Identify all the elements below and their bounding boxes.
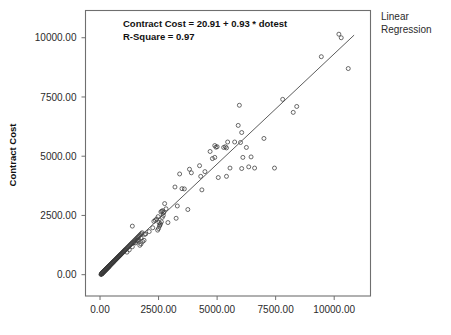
data-point xyxy=(166,221,170,225)
data-point xyxy=(240,131,244,135)
data-point xyxy=(247,165,251,169)
chart-figure: 0.002500.005000.007500.0010000.00 0.0025… xyxy=(0,0,451,335)
equation-annotation-line2: R-Square = 0.97 xyxy=(123,31,195,42)
data-point xyxy=(130,224,134,228)
legend-label-line1: Linear xyxy=(381,11,409,22)
y-axis-title: Contract Cost xyxy=(7,123,18,187)
data-point xyxy=(319,55,323,59)
scatter-plot-svg: 0.002500.005000.007500.0010000.00 0.0025… xyxy=(0,0,451,335)
data-point xyxy=(203,170,207,174)
y-tick-label: 0.00 xyxy=(57,269,77,280)
x-tick-label: 7500.00 xyxy=(258,304,295,315)
data-point xyxy=(174,216,178,220)
y-axis-tick-labels: 0.002500.005000.007500.0010000.00 xyxy=(35,32,77,280)
data-point xyxy=(295,104,299,108)
data-point xyxy=(291,110,295,114)
data-point xyxy=(244,145,248,149)
data-point xyxy=(178,172,182,176)
data-point xyxy=(346,67,350,71)
data-point xyxy=(186,208,190,212)
y-tick-label: 7500.00 xyxy=(40,92,77,103)
data-point xyxy=(233,140,237,144)
data-point xyxy=(240,167,244,171)
y-axis-ticks xyxy=(82,38,86,275)
data-point xyxy=(208,149,212,153)
data-point xyxy=(198,164,202,168)
data-point xyxy=(173,185,177,189)
y-tick-label: 2500.00 xyxy=(40,210,77,221)
data-point xyxy=(226,140,230,144)
data-point xyxy=(339,36,343,40)
equation-annotation-line1: Contract Cost = 20.91 + 0.93 * dotest xyxy=(123,18,288,29)
x-tick-label: 10000.00 xyxy=(313,304,355,315)
regression-line xyxy=(100,35,354,274)
data-point xyxy=(189,171,193,175)
data-point xyxy=(224,174,228,178)
data-point xyxy=(236,123,240,127)
data-point xyxy=(216,176,220,180)
data-point xyxy=(175,204,179,208)
data-point xyxy=(262,136,266,140)
x-tick-label: 0.00 xyxy=(90,304,110,315)
data-point xyxy=(200,188,204,192)
data-point xyxy=(253,166,257,170)
x-axis-tick-labels: 0.002500.005000.007500.0010000.00 xyxy=(90,304,355,315)
x-tick-label: 5000.00 xyxy=(199,304,236,315)
data-point xyxy=(147,230,151,234)
x-axis-ticks xyxy=(100,296,334,300)
data-point xyxy=(241,155,245,159)
data-point xyxy=(249,155,253,159)
data-point xyxy=(228,166,232,170)
data-point xyxy=(237,103,241,107)
y-tick-label: 10000.00 xyxy=(35,32,77,43)
legend-label-line2: Regression xyxy=(381,24,432,35)
data-point xyxy=(163,202,167,206)
x-tick-label: 2500.00 xyxy=(140,304,177,315)
y-tick-label: 5000.00 xyxy=(40,151,77,162)
data-point xyxy=(272,166,276,170)
